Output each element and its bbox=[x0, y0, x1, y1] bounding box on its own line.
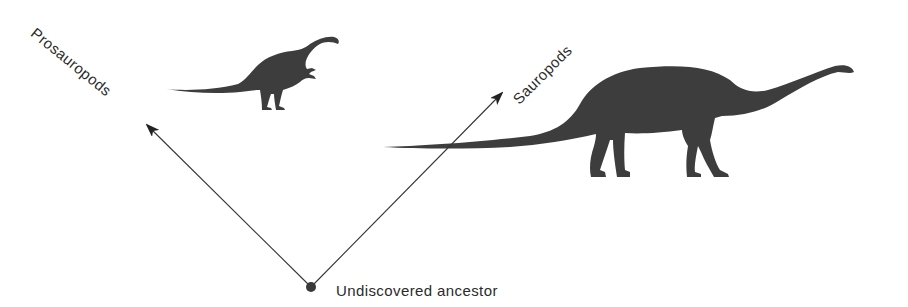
ancestor-node bbox=[306, 282, 316, 292]
sauropod-silhouette-icon bbox=[383, 65, 854, 177]
prosauropod-silhouette-icon bbox=[166, 37, 339, 110]
ancestor-label: Undiscovered ancestor bbox=[336, 283, 498, 298]
sauropods-branch-arrow bbox=[311, 93, 502, 287]
prosauropods-branch-arrow bbox=[147, 125, 311, 287]
evolution-diagram bbox=[0, 0, 908, 307]
